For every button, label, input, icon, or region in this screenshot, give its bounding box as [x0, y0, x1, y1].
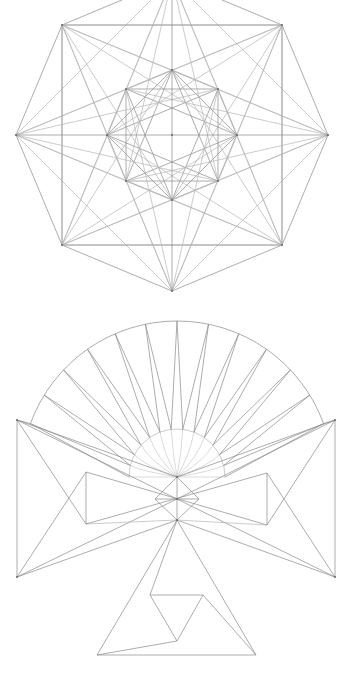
bottom-triangle-edge: [97, 520, 177, 655]
inner-vertex: [236, 134, 238, 136]
left-wing-to-apex: [17, 520, 177, 577]
geometric-drawing: [0, 0, 352, 676]
outer-inner-link: [172, 89, 218, 291]
spoke-line: [204, 334, 239, 438]
outer-chord: [172, 135, 328, 291]
left-wing-to-center: [17, 499, 177, 577]
inner-curved-ray: [177, 445, 213, 477]
spiral-line: [203, 595, 256, 655]
center-diamond: [155, 499, 177, 520]
inner-curved-ray: [141, 445, 177, 477]
inner-curved-ray: [160, 432, 177, 477]
outer-chord: [62, 0, 172, 245]
left-triangle-to-apex: [86, 520, 177, 524]
outer-vertex: [281, 244, 283, 246]
spiral-line: [177, 595, 203, 641]
spoke-line: [224, 424, 324, 466]
fan-vertex: [176, 519, 178, 521]
spiral-line: [150, 595, 177, 641]
outer-arc: [30, 321, 323, 424]
outer-chord: [172, 0, 328, 135]
inner-curved-ray: [171, 429, 177, 477]
spiral-line: [97, 641, 177, 655]
left-wing-cross: [17, 472, 86, 577]
bottom-triangle-edge: [177, 520, 256, 655]
inner-curved-ray: [177, 455, 220, 477]
outer-chord: [62, 0, 172, 25]
outer-vertex: [15, 134, 17, 136]
octagon-star-figure: [15, 0, 329, 292]
center-diamond: [177, 477, 199, 499]
inner-curved-ray: [134, 455, 177, 477]
right-wing-to-center: [177, 499, 335, 577]
left-wing-cross: [17, 420, 86, 524]
inner-chord: [172, 135, 237, 200]
spiral-line: [150, 520, 177, 595]
inner-arc: [129, 429, 225, 477]
spoke-line: [145, 324, 171, 429]
fan-sunburst-figure: [16, 321, 336, 655]
outer-vertex: [61, 244, 63, 246]
outer-chord: [172, 0, 282, 245]
right-wing-cross: [267, 473, 335, 577]
spoke-line: [224, 395, 310, 465]
fan-vertex: [16, 576, 18, 578]
inner-vertex: [217, 88, 219, 90]
right-wing-to-apex: [177, 520, 335, 577]
outer-chord: [16, 0, 172, 135]
outer-chord: [16, 135, 172, 291]
outer-inner-link: [126, 89, 328, 135]
outer-vertex: [281, 24, 283, 26]
spoke-line: [204, 349, 266, 437]
inner-curved-ray: [177, 429, 183, 477]
inner-vertex: [217, 180, 219, 182]
outer-vertex: [61, 24, 63, 26]
center-vertex: [171, 134, 173, 136]
inner-vertex: [171, 69, 173, 71]
spoke-line: [30, 424, 129, 477]
inner-curved-ray: [150, 437, 177, 477]
spoke-line: [88, 349, 150, 437]
outer-chord: [172, 0, 282, 25]
inner-vertex: [106, 134, 108, 136]
inner-chord: [107, 70, 172, 135]
right-wing-to-hub: [177, 420, 335, 477]
fan-vertex: [16, 419, 18, 421]
outer-inner-link: [16, 135, 218, 181]
spoke-line: [64, 370, 142, 445]
spoke-line: [171, 321, 177, 429]
inner-vertex: [125, 88, 127, 90]
fan-vertex: [176, 476, 178, 478]
fan-vertex: [334, 576, 336, 578]
right-wing-to-center: [177, 420, 335, 499]
spoke-line: [177, 321, 183, 429]
outer-vertex: [171, 290, 173, 292]
inner-chord: [107, 135, 172, 200]
spoke-line: [213, 370, 291, 445]
inner-vertex: [171, 199, 173, 201]
spoke-line: [183, 324, 209, 429]
fan-vertex: [176, 498, 178, 500]
fan-vertex: [334, 419, 336, 421]
inner-vertex: [125, 180, 127, 182]
spoke-line: [115, 334, 150, 438]
inner-curved-ray: [177, 437, 204, 477]
left-wing-to-hub: [17, 420, 177, 477]
inner-curved-ray: [177, 432, 194, 477]
inner-chord: [172, 70, 237, 135]
outer-vertex: [327, 134, 329, 136]
